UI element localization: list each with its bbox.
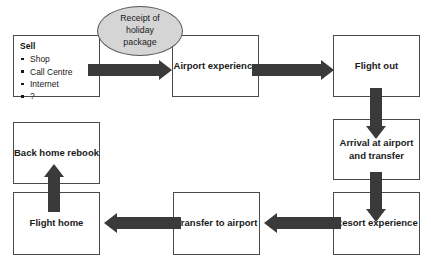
sell-item-label: ? <box>30 91 35 101</box>
node-label: Flight home <box>30 217 84 230</box>
arrow-head-down-icon <box>366 209 386 222</box>
list-item[interactable]: Call Centre <box>20 66 95 78</box>
ellipse-line-2: holiday <box>126 25 154 35</box>
sell-channel-list: Shop Call Centre Internet ? <box>20 53 95 103</box>
arrow-shaft <box>252 64 322 76</box>
node-label: Airport experience <box>174 60 258 73</box>
node-label: Arrival at airport and transfer <box>334 137 419 162</box>
arrow-shaft <box>117 217 181 229</box>
ellipse-line-1: Receipt of <box>120 13 160 23</box>
arrow-shaft <box>277 217 341 229</box>
node-label: Transfer to airport <box>176 217 258 230</box>
node-label: Flight out <box>355 60 398 73</box>
arrow-head-left-icon <box>104 213 117 233</box>
arrow-head-right-icon <box>321 60 334 80</box>
arrow-shaft <box>370 88 382 127</box>
sell-item-label: Shop <box>30 54 50 64</box>
arrow-head-right-icon <box>159 60 172 80</box>
sell-item-label: Internet <box>30 79 59 89</box>
list-item[interactable]: Internet <box>20 78 95 90</box>
node-sell[interactable]: Sell Shop Call Centre Internet ? <box>13 35 100 97</box>
bullet-icon <box>21 83 24 86</box>
node-receipt-of-holiday-package[interactable]: Receipt of holiday package <box>97 6 183 56</box>
arrow-head-left-icon <box>264 213 277 233</box>
list-item[interactable]: Shop <box>20 53 95 65</box>
arrow-shaft <box>88 64 160 76</box>
ellipse-label: Receipt of holiday package <box>120 13 160 49</box>
node-airport-experience[interactable]: Airport experience <box>172 35 259 97</box>
bullet-icon <box>21 58 24 61</box>
bullet-icon <box>21 95 24 98</box>
node-transfer-to-airport[interactable]: Transfer to airport <box>173 192 260 255</box>
arrow-shaft <box>48 176 60 212</box>
bullet-icon <box>21 70 24 73</box>
sell-item-label: Call Centre <box>30 67 73 77</box>
arrow-shaft <box>370 172 382 210</box>
arrow-head-up-icon <box>44 164 64 177</box>
node-label: Back home rebook <box>14 147 99 160</box>
ellipse-line-3: package <box>123 37 156 47</box>
arrow-head-down-icon <box>366 126 386 139</box>
list-item[interactable]: ? <box>20 90 95 102</box>
sell-title: Sell <box>20 41 95 52</box>
flowchart-canvas: Sell Shop Call Centre Internet ? Receipt… <box>0 0 431 271</box>
